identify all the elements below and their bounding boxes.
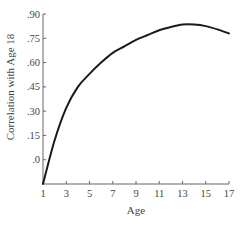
x-tick-label: 13 — [177, 188, 188, 199]
y-tick-label: .90 — [27, 9, 40, 20]
x-tick-label: 15 — [201, 188, 212, 199]
y-tick-label: .45 — [27, 81, 40, 92]
y-tick-label: .30 — [27, 106, 40, 117]
x-tick-label: 1 — [40, 188, 45, 199]
series-line — [43, 24, 229, 184]
correlation-chart: 1357911131517 .0.15.30.45.60.75.90 Age C… — [0, 0, 246, 226]
y-tick-label: .15 — [27, 130, 40, 141]
x-axis-title: Age — [127, 204, 145, 216]
y-tick-label: .75 — [27, 33, 40, 44]
x-tick-label: 9 — [133, 188, 138, 199]
y-tick-label: .0 — [32, 154, 40, 165]
x-tick-label: 7 — [110, 188, 115, 199]
x-tick-label: 11 — [154, 188, 164, 199]
y-axis-title: Correlation with Age 18 — [4, 33, 16, 140]
series-group — [43, 24, 229, 184]
x-tick-label: 17 — [224, 188, 235, 199]
x-tick-label: 3 — [64, 188, 69, 199]
x-tick-label: 5 — [87, 188, 92, 199]
y-tick-label: .60 — [27, 57, 40, 68]
